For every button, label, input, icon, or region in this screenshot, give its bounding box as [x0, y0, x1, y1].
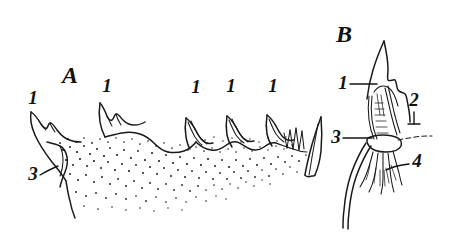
callout-a2-label: 1 [102, 75, 112, 96]
figure-container: A 1 1 1 1 1 3 B 1 2 3 4 [0, 0, 450, 232]
canvas-background [0, 0, 450, 232]
callout-b3-label: 3 [330, 126, 341, 147]
callout-a6-label: 3 [27, 163, 38, 184]
callout-a4-label: 1 [226, 75, 236, 96]
panel-letter-a: A [60, 62, 78, 88]
callout-a5-label: 1 [268, 75, 278, 96]
panel-letter-b: B [335, 21, 352, 47]
callout-a1-label: 1 [28, 87, 38, 108]
callout-a3-label: 1 [191, 76, 201, 97]
illustration-canvas: A 1 1 1 1 1 3 B 1 2 3 4 [0, 0, 450, 232]
callout-b2-label: 2 [408, 89, 419, 110]
callout-b1-label: 1 [338, 72, 348, 93]
callout-b4-label: 4 [411, 150, 422, 171]
